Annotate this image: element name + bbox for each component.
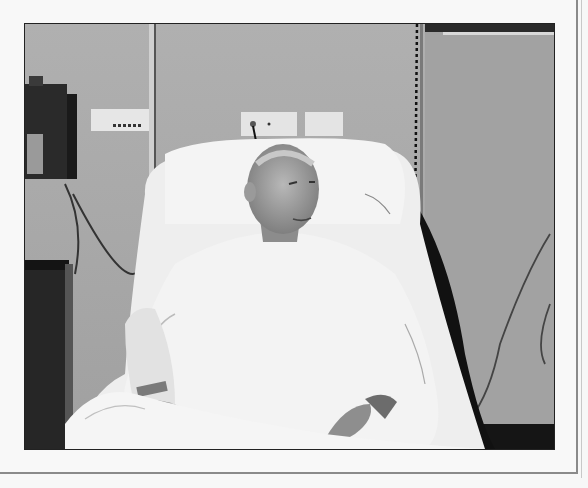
hospital-bed-photo — [25, 24, 554, 449]
photograph — [24, 23, 555, 450]
